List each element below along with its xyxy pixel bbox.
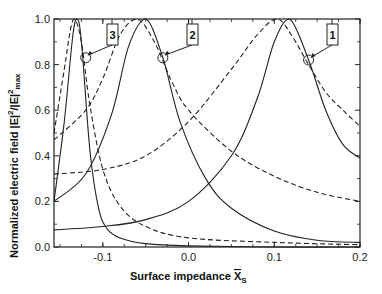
curve-3-dashed bbox=[54, 19, 360, 245]
callouts-group: 123 bbox=[81, 19, 338, 65]
x-axis-title: Surface impedance XS bbox=[130, 270, 247, 285]
curve-3-solid bbox=[54, 19, 360, 247]
y-axis-ticks: 0.00.20.40.60.81.0 bbox=[35, 13, 360, 253]
callout-arrow bbox=[166, 45, 192, 55]
curve-2-dashed bbox=[54, 19, 360, 201]
curve-1-solid bbox=[54, 19, 360, 230]
callout-2: 2 bbox=[158, 19, 198, 63]
y-tick-label: 1.0 bbox=[35, 13, 50, 25]
curves-group bbox=[54, 19, 360, 247]
y-tick-label: 0.0 bbox=[35, 241, 50, 253]
callout-1: 1 bbox=[304, 19, 338, 65]
callout-label: 1 bbox=[329, 29, 335, 41]
callout-3: 3 bbox=[81, 19, 118, 63]
x-tick-label: 0.1 bbox=[267, 251, 282, 263]
x-tick-label: -0.1 bbox=[93, 251, 112, 263]
y-tick-label: 0.8 bbox=[35, 59, 50, 71]
callout-label: 2 bbox=[189, 29, 195, 41]
y-tick-label: 0.6 bbox=[35, 104, 50, 116]
curve-2-solid bbox=[54, 19, 360, 242]
y-tick-label: 0.4 bbox=[35, 150, 50, 162]
curve-1-dashed bbox=[54, 19, 360, 174]
callout-label: 3 bbox=[109, 29, 115, 41]
y-axis-title: Normalized electric field |E|2/|E|2max bbox=[6, 73, 22, 258]
y-tick-label: 0.2 bbox=[35, 195, 50, 207]
chart: -0.10.00.10.2 0.00.20.40.60.81.0 123 Sur… bbox=[0, 0, 382, 294]
x-tick-label: 0.2 bbox=[352, 251, 367, 263]
x-tick-label: 0.0 bbox=[181, 251, 196, 263]
